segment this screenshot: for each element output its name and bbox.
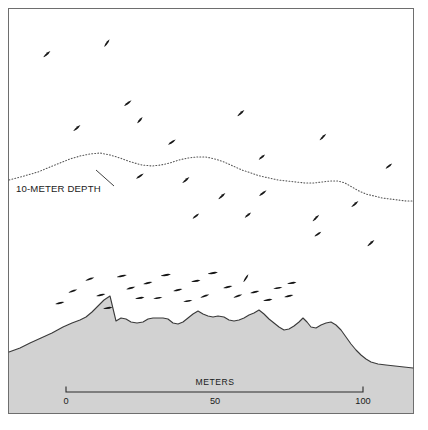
- fish-symbol: [192, 213, 200, 219]
- fish-body: [182, 176, 190, 183]
- fish-body: [385, 163, 393, 169]
- fish-symbol: [55, 301, 64, 305]
- fish-symbol: [117, 274, 127, 278]
- profile-svg-canvas: 10-METER DEPTH METERS 050100: [0, 0, 428, 430]
- fish-symbol: [161, 273, 171, 277]
- fish-symbol: [284, 294, 293, 298]
- fish-body: [233, 294, 242, 299]
- fish-body: [208, 271, 218, 275]
- fish-symbol: [263, 298, 272, 302]
- fish-body: [104, 39, 111, 48]
- fish-symbol: [183, 299, 192, 302]
- scale-tick-label: 100: [355, 396, 370, 406]
- fish-symbol: [208, 271, 218, 275]
- fish-body: [136, 173, 145, 180]
- fish-body: [55, 301, 64, 305]
- fish-symbol: [143, 281, 152, 285]
- fish-symbol: [319, 133, 327, 141]
- fish-body: [258, 154, 265, 161]
- fish-body: [68, 289, 77, 294]
- fish-body: [168, 139, 177, 146]
- fish-body: [263, 298, 272, 302]
- fish-body: [126, 286, 135, 290]
- fish-body: [183, 299, 192, 302]
- fish-body: [73, 124, 81, 131]
- fish-body: [244, 212, 251, 219]
- fish-body: [173, 288, 182, 292]
- fish-body: [243, 274, 249, 283]
- fish-body: [319, 133, 327, 141]
- fish-body: [96, 293, 105, 297]
- fish-symbol: [223, 285, 232, 289]
- fish-symbol: [153, 296, 162, 299]
- fish-symbol: [85, 277, 94, 282]
- fish-body: [117, 274, 127, 278]
- fish-body: [312, 214, 320, 222]
- fish-body: [250, 290, 259, 294]
- fish-body: [351, 200, 359, 207]
- fish-body: [218, 192, 226, 199]
- fish-body: [143, 281, 152, 285]
- fish-symbol: [68, 289, 77, 294]
- fish-symbol: [250, 290, 259, 294]
- fish-body: [124, 99, 132, 106]
- fish-symbol: [243, 274, 249, 283]
- fish-symbol: [191, 279, 200, 283]
- fish-symbol: [314, 231, 322, 237]
- fish-symbol: [258, 154, 265, 161]
- scale-tick-label: 0: [63, 396, 68, 406]
- fish-symbol: [137, 116, 144, 123]
- fish-body: [287, 281, 296, 285]
- fish-symbol: [135, 296, 144, 300]
- fish-symbol: [200, 294, 209, 299]
- fish-body: [43, 50, 51, 57]
- fish-symbol-group: [43, 39, 393, 310]
- fish-body: [191, 279, 200, 283]
- depth-contour-label: 10-METER DEPTH: [16, 183, 101, 194]
- fish-symbol: [126, 286, 135, 290]
- fish-body: [367, 239, 375, 246]
- fish-body: [314, 231, 322, 237]
- fish-symbol: [233, 294, 242, 299]
- fish-symbol: [124, 99, 132, 106]
- fish-body: [153, 296, 162, 299]
- fish-body: [259, 189, 267, 196]
- fish-symbol: [287, 281, 296, 285]
- fish-body: [237, 109, 245, 116]
- fish-body: [85, 277, 94, 282]
- fish-symbol: [351, 200, 359, 207]
- fish-symbol: [73, 124, 81, 131]
- fish-symbol: [312, 214, 320, 222]
- fish-symbol: [244, 212, 251, 219]
- fish-symbol: [136, 173, 145, 180]
- fish-body: [137, 116, 144, 123]
- fish-symbol: [237, 109, 245, 116]
- fish-symbol: [218, 192, 226, 199]
- fish-body: [200, 294, 209, 299]
- fish-body: [192, 213, 200, 219]
- fish-symbol: [385, 163, 393, 169]
- scale-bar-units-title: METERS: [196, 377, 235, 387]
- fish-body: [135, 296, 144, 300]
- scale-tick-label: 50: [210, 396, 220, 406]
- fish-symbol: [96, 293, 105, 297]
- fish-symbol: [259, 189, 267, 196]
- fish-symbol: [273, 286, 282, 289]
- fish-symbol: [173, 288, 182, 292]
- bathymetric-profile-figure: 10-METER DEPTH METERS 050100: [0, 0, 428, 430]
- fish-symbol: [367, 239, 375, 246]
- fish-body: [273, 286, 282, 289]
- fish-body: [284, 294, 293, 298]
- fish-symbol: [182, 176, 190, 183]
- fish-symbol: [104, 39, 111, 48]
- fish-symbol: [43, 50, 51, 57]
- fish-symbol: [168, 139, 177, 146]
- fish-body: [161, 273, 171, 277]
- fish-body: [223, 285, 232, 289]
